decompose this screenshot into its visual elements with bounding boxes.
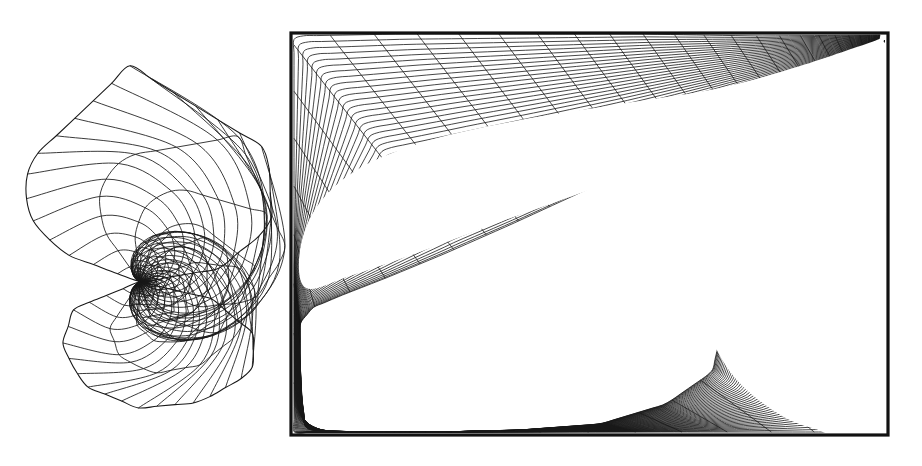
left-panel-spiral-mesh <box>0 0 292 466</box>
right-panel-curvilinear-grid <box>280 0 922 466</box>
void-lobes-group <box>299 38 892 448</box>
lower-ring-line <box>139 281 140 282</box>
spiral-mesh-svg <box>0 0 292 466</box>
figure-root <box>0 0 922 466</box>
upper-radial-line <box>28 163 195 287</box>
upper-lobe-group <box>26 66 285 341</box>
upper-radial-line <box>38 151 205 289</box>
curvilinear-grid-svg <box>280 0 922 466</box>
